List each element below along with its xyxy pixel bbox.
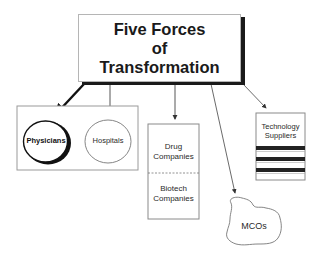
arrow-to-mcos: [211, 84, 235, 193]
biotech-line-1: Biotech: [148, 184, 199, 194]
arrow-to-technology: [243, 84, 266, 108]
stripe-2: [256, 157, 305, 161]
biotech-line-2: Companies: [148, 194, 199, 204]
title-line-3: Transformation: [99, 58, 219, 77]
mcos-label: MCOs: [236, 221, 272, 231]
physicians-label: Physicians: [22, 136, 70, 146]
drug-companies-label: Drug Companies: [148, 142, 199, 162]
technology-line-1: Technology: [256, 122, 305, 131]
drug-line-1: Drug: [148, 142, 199, 152]
technology-suppliers-label: Technology Suppliers: [256, 122, 305, 140]
biotech-companies-label: Biotech Companies: [148, 184, 199, 204]
stripe-1: [256, 146, 305, 150]
title-line-2: of: [152, 39, 168, 58]
stripe-3: [256, 168, 305, 172]
title-line-1: Five Forces: [114, 20, 206, 39]
pharma-node: [148, 124, 199, 219]
technology-line-2: Suppliers: [256, 131, 305, 140]
drug-line-2: Companies: [148, 152, 199, 162]
title-box: Five Forces of Transformation: [78, 14, 241, 82]
hospitals-label: Hospitals: [86, 136, 130, 146]
